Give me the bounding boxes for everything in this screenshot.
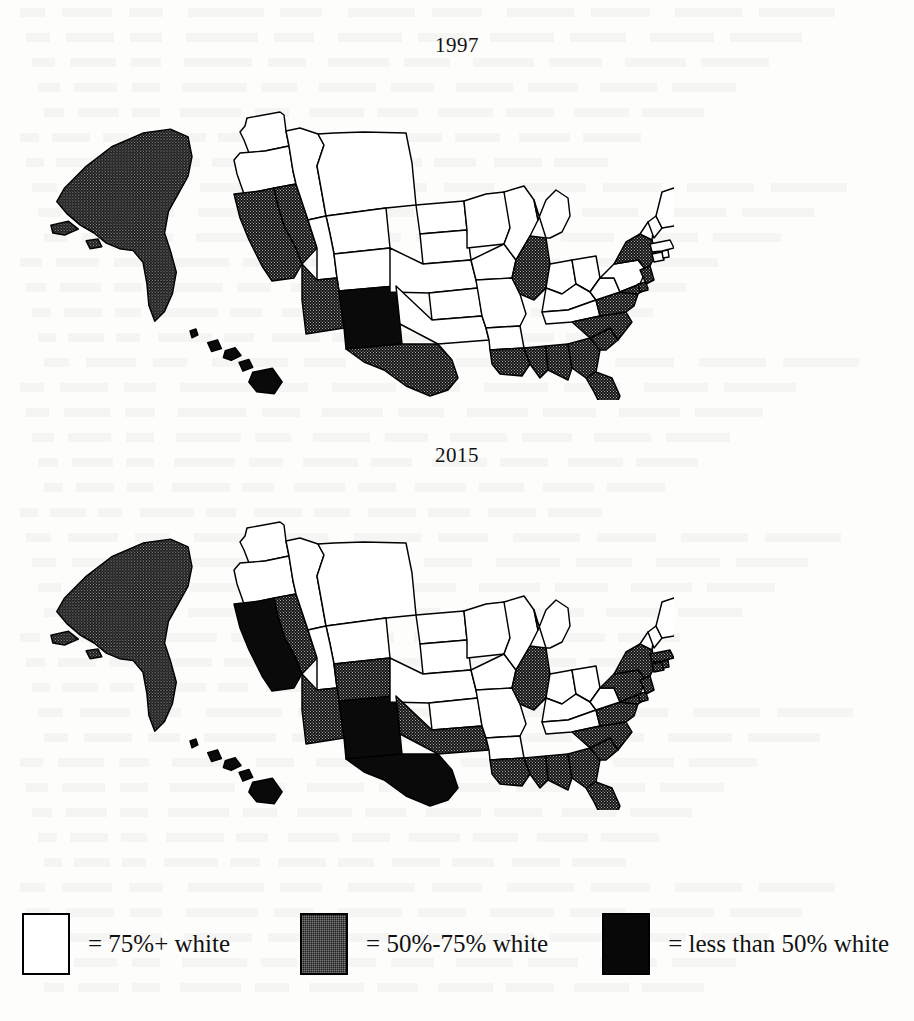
state-co (334, 658, 396, 701)
legend-item-50-75-white: = 50%-75% white (300, 913, 548, 975)
state-nj (640, 266, 654, 284)
state-ks (429, 698, 482, 730)
state-ar (486, 736, 524, 760)
map-contiguous-states (234, 522, 674, 810)
state-fl (586, 782, 620, 810)
state-hi (208, 750, 222, 762)
legend-label-black: = less than 50% white (668, 930, 889, 958)
state-mt (317, 132, 416, 216)
us-map-2015 (34, 498, 674, 810)
state-ak (57, 129, 192, 321)
state-me (656, 598, 674, 638)
state-la (490, 348, 530, 376)
map-title-2015: 2015 (0, 443, 914, 468)
state-hi (190, 329, 198, 338)
state-mt (317, 542, 416, 626)
state-ak (51, 221, 78, 235)
state-nm (339, 696, 402, 759)
state-tx (346, 754, 458, 806)
state-hi (239, 769, 253, 781)
state-ak (86, 239, 102, 249)
state-hi (249, 778, 282, 803)
legend-label-gray: = 50%-75% white (366, 930, 548, 958)
state-nm (339, 286, 402, 349)
state-ar (486, 326, 524, 350)
state-sd (420, 230, 471, 264)
map-contiguous-states (234, 112, 674, 400)
legend-swatch-white (22, 913, 70, 975)
map-title-1997: 1997 (0, 33, 914, 58)
state-nd (416, 611, 467, 644)
state-ma (650, 240, 674, 252)
state-hi (239, 359, 253, 371)
legend-label-white: = 75%+ white (88, 930, 230, 958)
state-ak (51, 631, 78, 645)
legend-item-75-plus-white: = 75%+ white (22, 913, 230, 975)
state-fl (586, 372, 620, 400)
state-ak (86, 649, 102, 659)
state-ak (57, 539, 192, 731)
state-nj (640, 676, 654, 694)
legend-swatch-black (602, 913, 650, 975)
state-al (546, 344, 572, 380)
state-ma (650, 650, 674, 662)
state-me (656, 188, 674, 228)
state-la (490, 758, 530, 786)
state-hi (208, 340, 222, 352)
state-mi (534, 190, 570, 238)
state-hi (223, 348, 241, 361)
state-hi (249, 368, 282, 393)
state-wy (326, 618, 390, 664)
state-co (334, 248, 396, 291)
state-wy (326, 208, 390, 254)
state-sd (420, 640, 471, 674)
state-tx (346, 344, 458, 396)
state-hi (223, 758, 241, 771)
state-hi (190, 739, 198, 748)
map-panel-1997 (34, 88, 674, 400)
legend-item-less-than-50-white: = less than 50% white (602, 913, 889, 975)
map-panel-2015 (34, 498, 674, 810)
legend-swatch-gray (300, 913, 348, 975)
us-map-1997 (34, 88, 674, 400)
state-mi (534, 600, 570, 648)
state-ks (429, 288, 482, 320)
state-al (546, 754, 572, 790)
state-nd (416, 201, 467, 234)
legend: = 75%+ white = 50%-75% white = less than… (22, 906, 902, 982)
